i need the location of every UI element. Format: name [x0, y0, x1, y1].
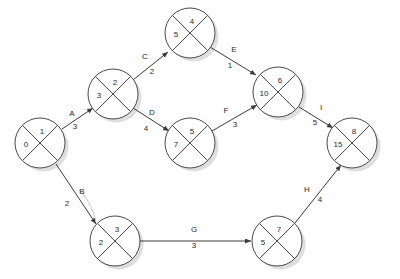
- edge-a: [62, 108, 93, 129]
- edge-activity-label-f: F: [224, 106, 229, 115]
- edge-activity-label-h: H: [304, 185, 310, 194]
- edge-duration-label-e: 1: [228, 61, 233, 70]
- edge-activity-label-b: B: [79, 187, 84, 196]
- edge-arrow-b: [56, 164, 96, 224]
- node-value-label-4: 5: [174, 30, 179, 39]
- node-6[interactable]: 610: [253, 67, 303, 117]
- edge-h: [295, 165, 341, 223]
- node-1[interactable]: 10: [15, 118, 65, 168]
- node-2[interactable]: 23: [88, 69, 138, 119]
- node-id-label-7: 7: [277, 225, 282, 234]
- node-8[interactable]: 815: [327, 118, 377, 168]
- node-value-label-1: 0: [24, 140, 29, 149]
- edge-label-group-e: E1: [228, 45, 237, 70]
- node-id-label-2: 2: [113, 78, 118, 87]
- edge-duration-label-c: 2: [150, 67, 155, 76]
- node-7[interactable]: 75: [252, 216, 302, 266]
- node-id-label-4: 4: [190, 17, 195, 26]
- edge-duration-label-g: 3: [192, 241, 197, 250]
- edge-activity-label-d: D: [149, 108, 155, 117]
- node-id-label-6: 6: [278, 76, 283, 85]
- node-value-label-2: 3: [97, 91, 102, 100]
- edge-activity-label-c: C: [142, 52, 148, 61]
- edge-label-group-a: A3: [69, 109, 77, 131]
- edge-duration-label-i: 5: [313, 118, 318, 127]
- edge-label-group-b: B2: [65, 187, 85, 208]
- edge-duration-label-f: 3: [233, 120, 238, 129]
- diagram-canvas: 102332455761075815 A3B2C2D4E1F3G3H4I5: [0, 0, 400, 279]
- edge-label-group-h: H4: [304, 185, 323, 204]
- node-5[interactable]: 57: [165, 118, 215, 168]
- edge-duration-label-b: 2: [65, 199, 70, 208]
- edge-activity-label-g: G: [191, 225, 197, 234]
- edge-label-group-i: I5: [313, 103, 322, 127]
- edge-activity-label-i: I: [320, 103, 322, 112]
- edge-arrow-h: [295, 165, 341, 223]
- edge-activity-label-e: E: [231, 45, 236, 54]
- edge-activity-label-a: A: [69, 109, 75, 118]
- node-value-label-8: 15: [334, 140, 343, 149]
- node-id-label-1: 1: [40, 127, 45, 136]
- edge-b: [56, 164, 96, 224]
- edge-duration-label-d: 4: [144, 124, 149, 133]
- node-id-label-5: 5: [190, 127, 195, 136]
- node-4[interactable]: 45: [165, 8, 215, 58]
- network-diagram: 102332455761075815 A3B2C2D4E1F3G3H4I5: [0, 0, 400, 279]
- node-id-label-8: 8: [352, 127, 357, 136]
- edge-duration-label-a: 3: [73, 122, 78, 131]
- edge-arrow-a: [62, 108, 93, 129]
- node-value-label-5: 7: [174, 140, 179, 149]
- node-id-label-3: 3: [115, 225, 120, 234]
- node-value-label-3: 2: [99, 238, 104, 247]
- edge-duration-label-h: 4: [318, 195, 323, 204]
- node-3[interactable]: 32: [90, 216, 140, 266]
- edge-label-group-g: G3: [191, 225, 197, 250]
- node-value-label-6: 10: [260, 89, 269, 98]
- node-value-label-7: 5: [261, 238, 266, 247]
